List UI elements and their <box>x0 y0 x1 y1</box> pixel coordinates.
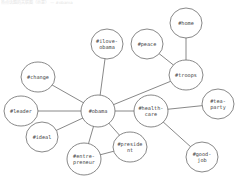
node-label: #change <box>27 74 49 81</box>
node-health-care: #health-care <box>134 95 168 127</box>
node-tea-party: #tea-party <box>202 89 234 119</box>
node-label: #ilove- <box>96 38 118 44</box>
node-obama: #obama <box>81 95 115 127</box>
node-label: #obama <box>89 108 108 114</box>
node-label: #ideal <box>33 134 52 140</box>
node-label: nt <box>127 147 133 153</box>
node-label: #leader <box>10 108 32 114</box>
node-label: #tea- <box>210 98 226 104</box>
node-ilove-obama: #ilove-obama <box>91 29 123 59</box>
node-label: obama <box>99 44 115 50</box>
hashtag-network-diagram: #home#peace#ilove-obama#troops#change#le… <box>0 0 241 185</box>
node-good-job: #good-job <box>186 142 218 172</box>
node-label: job <box>197 157 206 164</box>
node-entre-preneur: #entre-preneur <box>67 143 101 175</box>
node-home: #home <box>170 8 202 38</box>
node-label: #entre- <box>73 153 95 159</box>
node-troops: #troops <box>169 60 203 90</box>
nodes-layer: #home#peace#ilove-obama#troops#change#le… <box>4 8 234 175</box>
node-label: #troops <box>175 72 197 79</box>
node-president: #president <box>113 132 147 162</box>
node-label: preneur <box>73 159 95 166</box>
node-leader: #leader <box>4 96 38 126</box>
node-change: #change <box>21 62 55 92</box>
node-label: party <box>210 104 226 111</box>
node-ideal: #ideal <box>26 122 58 152</box>
node-label: #health- <box>139 105 164 111</box>
node-label: care <box>145 111 158 117</box>
node-peace: #peace <box>131 29 163 59</box>
node-label: #peace <box>138 41 157 48</box>
node-label: #home <box>178 20 194 26</box>
